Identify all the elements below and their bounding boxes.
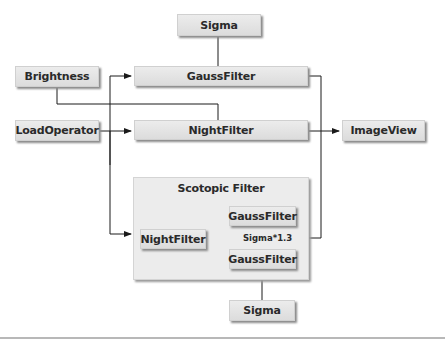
night-filter-node: NightFilter <box>134 120 308 140</box>
image-view-node: ImageView <box>342 120 425 141</box>
sigma-bottom-node: Sigma <box>229 300 295 321</box>
sigma-top-node: Sigma <box>177 14 261 36</box>
scotopic-night-filter-node: NightFilter <box>140 229 206 249</box>
scotopic-filter-title: Scotopic Filter <box>134 182 308 195</box>
connector-lines <box>0 0 445 343</box>
scotopic-gauss-filter-lower-node: GaussFilter <box>229 249 296 269</box>
scotopic-gauss-filter-upper-node: GaussFilter <box>229 206 296 226</box>
bottom-divider <box>0 337 445 339</box>
gauss-filter-node: GaussFilter <box>134 66 308 86</box>
brightness-node: Brightness <box>15 66 99 87</box>
load-operator-node: LoadOperator <box>15 120 99 141</box>
sigma-scale-label: Sigma*1.3 <box>243 233 292 243</box>
